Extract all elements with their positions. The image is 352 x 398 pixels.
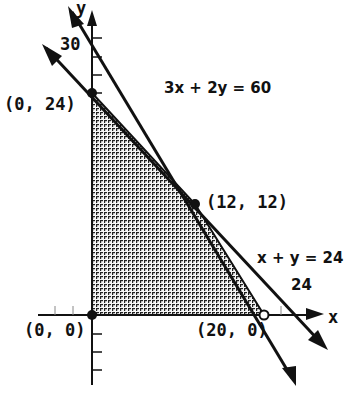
vertex-label-0-0: (0, 0) xyxy=(24,322,85,339)
vertex-label-12-12: (12, 12) xyxy=(206,194,288,211)
x-tick-label-24: 24 xyxy=(291,278,312,293)
vertex-20-0 xyxy=(260,311,269,320)
vertex-label-20-0: (20, 0) xyxy=(196,322,268,339)
x-axis-label: x xyxy=(328,309,338,326)
y-axis-label: y xyxy=(76,0,86,17)
vertex-0-24 xyxy=(87,88,97,98)
vertex-12-12 xyxy=(190,199,200,209)
vertex-0-0 xyxy=(87,310,97,320)
y-tick-label-30: 30 xyxy=(60,36,80,53)
equation-label-3x-2y-60: 3x + 2y = 60 xyxy=(164,81,271,96)
vertex-label-0-24: (0, 24) xyxy=(4,96,76,113)
equation-label-x-y-24: x + y = 24 xyxy=(257,251,343,266)
